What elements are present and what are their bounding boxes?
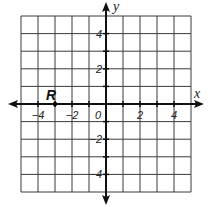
y-tick-label: 4 <box>96 28 102 40</box>
x-tick-label: 0 <box>95 109 102 121</box>
x-tick-label: 4 <box>171 109 177 121</box>
x-axis-label: x <box>193 86 201 101</box>
point-label-r: R <box>46 87 57 103</box>
y-tick-label: −4 <box>89 168 102 180</box>
tick-labels: −4−202442−2−4xy <box>32 0 201 180</box>
x-tick-label: −4 <box>32 109 45 121</box>
y-tick-label: −2 <box>89 133 102 145</box>
x-tick-label: 2 <box>136 109 143 121</box>
coordinate-plane: −4−202442−2−4xy R <box>0 0 208 207</box>
y-tick-label: 2 <box>95 63 102 75</box>
x-tick-label: −2 <box>66 109 79 121</box>
y-axis-label: y <box>111 0 120 14</box>
